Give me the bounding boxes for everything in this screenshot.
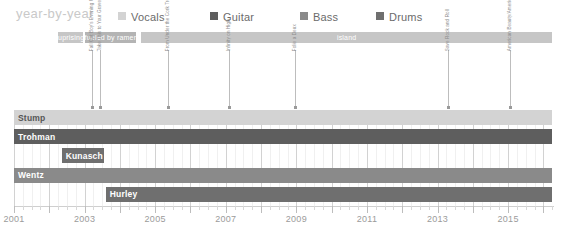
axis-tick-label: 2003 <box>74 214 95 224</box>
axis-tick <box>58 206 59 210</box>
axis-tick <box>102 206 103 210</box>
member-name-trohman: Trohman <box>18 132 55 142</box>
axis-tick <box>420 206 421 210</box>
album-title: Infinity on High <box>226 0 231 51</box>
legend-label: Bass <box>313 11 338 23</box>
axis-tick <box>40 206 41 210</box>
legend-item-bass: Bass <box>300 7 338 21</box>
axis-tick <box>535 206 536 210</box>
album-title: From Under the Cork Tree <box>164 0 169 51</box>
album-title: Take This to Your Grave <box>97 0 102 51</box>
member-row: Hurley <box>14 187 554 202</box>
member-segment-active <box>432 110 552 125</box>
axis-tick <box>526 206 527 210</box>
album-marker: Save Rock and Roll <box>448 50 449 109</box>
member-segment-active <box>14 110 316 125</box>
legend-item-guitar: Guitar <box>210 7 254 21</box>
member-row: Trohman <box>14 129 554 144</box>
axis-tick <box>138 206 139 210</box>
axis-tick <box>543 206 544 213</box>
axis-tick <box>226 206 227 213</box>
axis-tick <box>473 206 474 213</box>
axis-tick <box>261 206 262 213</box>
chart-header: year-by-year VocalsGuitarBassDrums <box>0 0 568 26</box>
axis-tick <box>314 206 315 210</box>
axis-tick <box>32 206 33 210</box>
page-title: year-by-year <box>16 6 94 21</box>
axis-tick <box>402 206 403 213</box>
album-title: Folie a Deux <box>291 0 296 51</box>
album-marker-dot <box>294 106 297 109</box>
album-marker-stem <box>92 50 93 109</box>
album-title: Fall Out Boy's Evening Out with Your Gir… <box>88 0 93 51</box>
axis-tick <box>490 206 491 210</box>
member-name-stump: Stump <box>18 113 45 123</box>
axis-tick <box>146 206 147 210</box>
record-label-name: island <box>141 32 552 43</box>
member-segment-active <box>432 168 552 183</box>
axis-tick <box>23 206 24 210</box>
legend-swatch-drums-icon <box>376 12 384 20</box>
legend-swatch-vocals-icon <box>118 12 126 20</box>
member-segment-hiatus <box>316 187 432 202</box>
legend-item-drums: Drums <box>376 7 422 21</box>
member-name-wentz: Wentz <box>18 170 44 180</box>
axis-tick <box>358 206 359 210</box>
axis-tick <box>446 206 447 210</box>
axis-tick <box>482 206 483 210</box>
album-marker: Folie a Deux <box>295 50 296 109</box>
legend-swatch-guitar-icon <box>210 12 218 20</box>
axis-tick <box>464 206 465 210</box>
axis-tick <box>164 206 165 210</box>
axis-tick <box>455 206 456 210</box>
axis-tick <box>429 206 430 210</box>
axis-tick <box>182 206 183 210</box>
x-axis: 20012003200520072009201120132015 <box>14 206 554 230</box>
legend-label: Vocals <box>131 11 165 23</box>
axis-tick <box>85 206 86 213</box>
member-row: Wentz <box>14 168 554 183</box>
axis-tick <box>49 206 50 213</box>
album-marker-dot <box>447 106 450 109</box>
album-marker-stem <box>229 50 230 109</box>
axis-tick <box>235 206 236 210</box>
axis-tick <box>288 206 289 210</box>
record-label-name: uprising <box>58 32 83 43</box>
axis-tick <box>411 206 412 210</box>
axis-tick <box>111 206 112 210</box>
member-segment-hiatus <box>316 168 432 183</box>
member-name-hurley: Hurley <box>110 189 138 199</box>
axis-tick <box>323 206 324 210</box>
axis-tick <box>552 206 553 210</box>
legend-label: Drums <box>389 11 422 23</box>
axis-tick-label: 2011 <box>357 214 378 224</box>
axis-tick <box>67 206 68 210</box>
axis-tick <box>76 206 77 210</box>
album-marker: Fall Out Boy's Evening Out with Your Gir… <box>92 50 93 109</box>
axis-tick <box>438 206 439 213</box>
axis-tick <box>173 206 174 210</box>
member-row: Stump <box>14 110 554 125</box>
legend-item-vocals: Vocals <box>118 7 165 21</box>
axis-tick <box>385 206 386 210</box>
axis-tick-label: 2009 <box>286 214 307 224</box>
axis-tick <box>270 206 271 210</box>
axis-tick <box>93 206 94 210</box>
axis-tick <box>243 206 244 210</box>
album-marker-dot <box>91 106 94 109</box>
axis-tick-label: 2015 <box>497 214 518 224</box>
axis-tick <box>376 206 377 210</box>
album-marker: American Beauty/American Psycho <box>510 50 511 109</box>
axis-tick <box>367 206 368 213</box>
member-segment-active <box>432 129 552 144</box>
album-marker-dot <box>99 106 102 109</box>
member-segment-hiatus <box>316 129 432 144</box>
axis-tick <box>190 206 191 213</box>
axis-tick <box>279 206 280 210</box>
axis-tick-label: 2013 <box>427 214 448 224</box>
album-marker-stem <box>295 50 296 109</box>
axis-tick <box>129 206 130 210</box>
member-row: Kunasch <box>14 148 554 163</box>
member-segment-active <box>14 129 316 144</box>
axis-tick-label: 2005 <box>145 214 166 224</box>
